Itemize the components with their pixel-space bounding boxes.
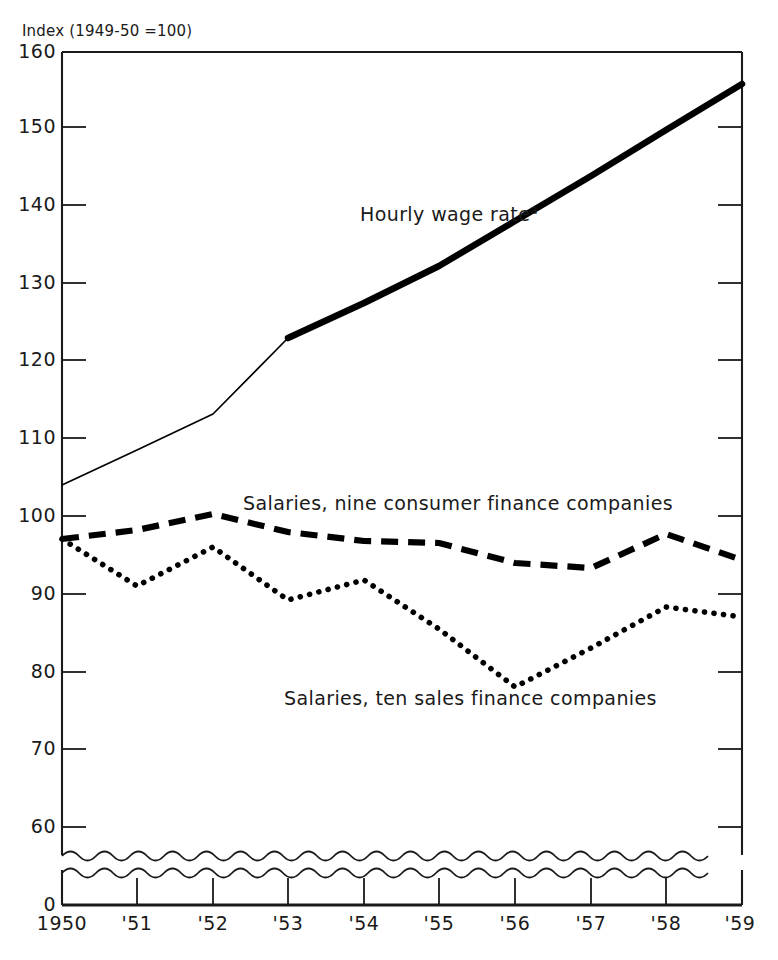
x-tick-label-56: '56 <box>480 912 550 934</box>
y-tick-label-60: 60 <box>10 815 56 837</box>
series-annotation-ten-sales-finance-companies: Salaries, ten sales finance companies <box>284 687 657 709</box>
axis-break-indicator <box>62 852 708 878</box>
chart-canvas <box>0 0 778 960</box>
series-hourly-wage-rate <box>62 84 742 485</box>
plot-frame <box>62 52 742 905</box>
series-nine-consumer-finance-companies <box>62 514 742 568</box>
series-annotation-hourly-wage-rate-text: Hourly wage rate <box>360 203 530 225</box>
x-tick-label-1950: 1950 <box>22 912 102 934</box>
y-axis-title: Index (1949-50 =100) <box>22 22 192 40</box>
x-tick-label-53: '53 <box>253 912 323 934</box>
x-tick-label-54: '54 <box>329 912 399 934</box>
x-tick-label-57: '57 <box>556 912 626 934</box>
x-axis-ticks <box>62 878 742 905</box>
x-tick-label-55: '55 <box>404 912 474 934</box>
y-tick-label-130: 130 <box>10 271 56 293</box>
series-hourly-wage-rate-thin <box>62 338 288 485</box>
y-tick-label-90: 90 <box>10 582 56 604</box>
y-tick-label-140: 140 <box>10 193 56 215</box>
y-tick-label-100: 100 <box>10 504 56 526</box>
y-axis-ticks-right <box>718 127 742 827</box>
x-tick-label-51: '51 <box>102 912 172 934</box>
y-axis-ticks <box>62 127 86 827</box>
series-ten-sales-finance-companies <box>62 539 742 687</box>
y-tick-label-160: 160 <box>10 40 56 62</box>
x-tick-label-58: '58 <box>631 912 701 934</box>
x-tick-label-59: '59 <box>705 912 775 934</box>
chart-figure: Index (1949-50 =100) 160 150 140 130 120… <box>0 0 778 960</box>
series-annotation-nine-consumer-finance-companies: Salaries, nine consumer finance companie… <box>243 492 673 514</box>
series-annotation-hourly-wage-rate: Hourly wage ratea <box>360 203 538 225</box>
y-tick-label-80: 80 <box>10 660 56 682</box>
y-tick-label-70: 70 <box>10 737 56 759</box>
x-tick-label-52: '52 <box>178 912 248 934</box>
y-tick-label-120: 120 <box>10 348 56 370</box>
series-annotation-hourly-wage-rate-superscript: a <box>530 203 538 217</box>
y-tick-label-110: 110 <box>10 426 56 448</box>
y-tick-label-150: 150 <box>10 115 56 137</box>
